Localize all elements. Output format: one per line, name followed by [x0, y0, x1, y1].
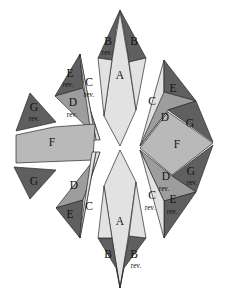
label-right-C-top: C	[148, 95, 156, 107]
label-bottom-B-right: B	[130, 248, 138, 260]
label-right-E-bottom: E	[169, 193, 176, 205]
figure-canvas: B rev. B A E rev. D rev. C rev. G rev. F	[0, 0, 228, 297]
label-top-B-right: B	[130, 35, 138, 47]
label-top-B-left-rev: rev.	[102, 49, 113, 57]
label-right-F: F	[174, 138, 180, 150]
label-top-B-left: B	[104, 35, 112, 47]
label-ul-D: D	[69, 96, 77, 108]
label-bottom-B-left: B	[104, 248, 112, 260]
label-ll-D: D	[70, 179, 78, 191]
label-right-D-top: D	[161, 111, 169, 123]
label-right-C-bottom-rev: rev.	[145, 204, 156, 212]
label-ul-E: E	[66, 67, 73, 79]
label-ll-C: C	[85, 200, 93, 212]
label-top-A: A	[116, 69, 125, 81]
label-right-G-bottom-rev: rev.	[187, 179, 198, 187]
polyhedron-net-diagram: B rev. B A E rev. D rev. C rev. G rev. F	[0, 0, 228, 297]
label-left-F: F	[49, 136, 55, 148]
label-ul-C-rev: rev.	[84, 91, 95, 99]
label-ll-E: E	[66, 208, 73, 220]
label-right-D-bottom-rev: rev.	[159, 185, 170, 193]
label-left-G-top-rev: rev.	[29, 115, 40, 123]
label-right-C-bottom: C	[148, 189, 156, 201]
label-ul-E-rev: rev.	[63, 81, 74, 89]
label-left-G-bottom: G	[30, 175, 38, 187]
label-right-E-top: E	[169, 82, 176, 94]
label-ul-D-rev: rev.	[67, 111, 78, 119]
label-right-G-bottom: G	[187, 165, 195, 177]
label-left-G-top: G	[30, 101, 38, 113]
label-bottom-B-right-rev: rev.	[131, 262, 142, 270]
label-right-G-top: G	[186, 117, 194, 129]
label-bottom-A: A	[116, 215, 125, 227]
label-ul-C: C	[85, 76, 93, 88]
label-right-E-bottom-rev: rev.	[167, 208, 178, 216]
label-right-D-bottom: D	[162, 170, 170, 182]
